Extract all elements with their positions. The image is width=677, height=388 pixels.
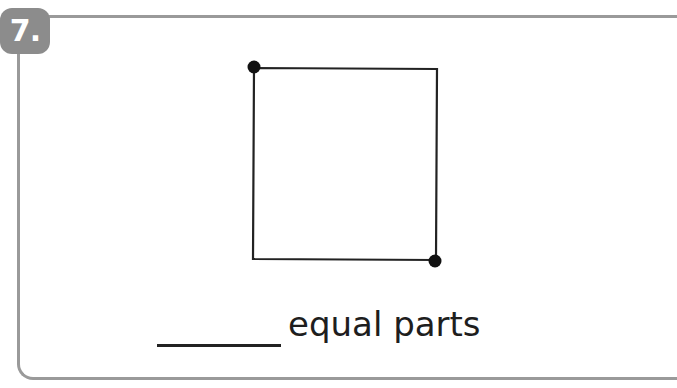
square-figure xyxy=(245,58,455,273)
equal-parts-label: equal parts xyxy=(288,304,481,344)
square-outline xyxy=(253,68,437,260)
dot-top-left xyxy=(248,61,261,74)
answer-blank-line[interactable] xyxy=(157,344,281,347)
dot-bottom-right xyxy=(429,255,442,268)
question-number-badge: 7. xyxy=(0,8,50,54)
